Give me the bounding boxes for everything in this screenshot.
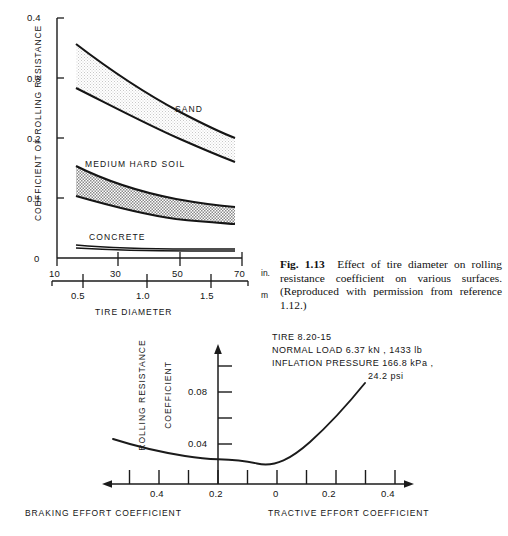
lower-x-tick-tractive-0-2: 0.2 — [322, 488, 336, 499]
soil-label: MEDIUM HARD SOIL — [85, 159, 185, 169]
figure-caption: Fig. 1.13 Effect of tire diameter on rol… — [280, 258, 502, 312]
lower-chart: 0.08 0.04 ROLLING RESISTANCE COEFFICIENT… — [0, 318, 508, 536]
annotation-tire: TIRE 8.20-15 — [272, 332, 433, 342]
lower-chart-x-axis-title-left: BRAKING EFFORT COEFFICIENT — [25, 508, 182, 518]
upper-x-in-tick-50: 50 — [172, 268, 183, 279]
rolling-resistance-curve — [113, 383, 365, 465]
concrete-band-upper-curve — [76, 245, 235, 249]
lower-x-tick-zero: 0 — [273, 488, 278, 499]
upper-y-tick-0-4: 0.4 — [27, 12, 41, 23]
lower-x-tick-braking-0-4: 0.4 — [150, 488, 164, 499]
upper-x-in-tick-10: 10 — [49, 268, 60, 279]
annotation-inflation-pressure-psi: 24.2 psi — [272, 371, 433, 381]
annotation-inflation-pressure: INFLATION PRESSURE 166.8 kPa , — [272, 358, 433, 368]
figure-page: COEFFICIENT OF ROLLING RESISTANCE — [0, 0, 508, 536]
upper-y-tick-0: 0 — [34, 253, 39, 264]
upper-unit-metres: m — [261, 290, 268, 300]
lower-chart-x-axis-title-right: TRACTIVE EFFORT COEFFICIENT — [268, 508, 429, 518]
annotation-normal-load: NORMAL LOAD 6.37 kN , 1433 lb — [272, 345, 433, 355]
upper-x-m-tick-0-5: 0.5 — [71, 290, 85, 301]
lower-x-tick-tractive-0-4: 0.4 — [381, 488, 395, 499]
upper-x-in-tick-30: 30 — [110, 268, 121, 279]
lower-chart-annotations: TIRE 8.20-15 NORMAL LOAD 6.37 kN , 1433 … — [272, 332, 433, 381]
upper-chart-x-axis-title: TIRE DIAMETER — [95, 307, 172, 317]
upper-chart: COEFFICIENT OF ROLLING RESISTANCE — [0, 0, 300, 320]
upper-x-m-tick-1-0: 1.0 — [136, 290, 150, 301]
concrete-label: CONCRETE — [89, 232, 146, 242]
upper-x-in-tick-70: 70 — [234, 268, 245, 279]
upper-y-tick-0-2: 0.2 — [27, 133, 41, 144]
sand-label: SAND — [175, 104, 203, 114]
figure-caption-label: Fig. 1.13 — [280, 258, 325, 270]
upper-unit-inches: in. — [261, 268, 270, 278]
lower-x-tick-braking-0-2: 0.2 — [209, 488, 223, 499]
lower-y-tick-0-08: 0.08 — [188, 386, 207, 397]
upper-y-tick-0-1: 0.1 — [27, 193, 41, 204]
lower-chart-y-axis-title-line1: ROLLING RESISTANCE — [137, 333, 147, 457]
upper-x-m-tick-1-5: 1.5 — [200, 290, 214, 301]
lower-chart-y-axis-title-line2: COEFFICIENT — [163, 333, 173, 457]
upper-y-tick-0-3: 0.3 — [27, 73, 41, 84]
lower-y-tick-0-04: 0.04 — [188, 438, 207, 449]
